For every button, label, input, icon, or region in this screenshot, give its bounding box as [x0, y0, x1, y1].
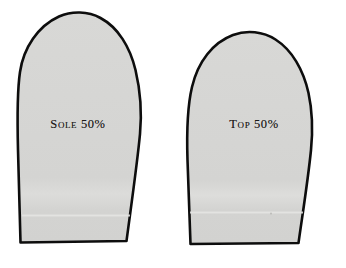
pattern-piece-label-top: Top 50%	[202, 118, 306, 131]
scan-speck-artifact	[270, 213, 272, 215]
pattern-sheet: Sole 50% Top 50%	[0, 0, 346, 268]
pattern-pieces-illustration	[0, 0, 346, 268]
pattern-piece-label-sole: Sole 50%	[26, 118, 130, 131]
